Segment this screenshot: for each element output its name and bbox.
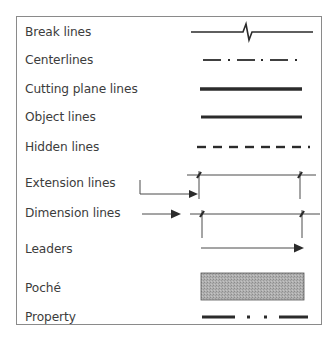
- dimension-lines-sample: [142, 210, 320, 239]
- line-samples: [0, 0, 336, 344]
- extension-lines-sample: [140, 171, 316, 199]
- leader-sample: [201, 244, 304, 253]
- break-line-sample: [191, 24, 313, 40]
- poche-sample: [201, 273, 304, 300]
